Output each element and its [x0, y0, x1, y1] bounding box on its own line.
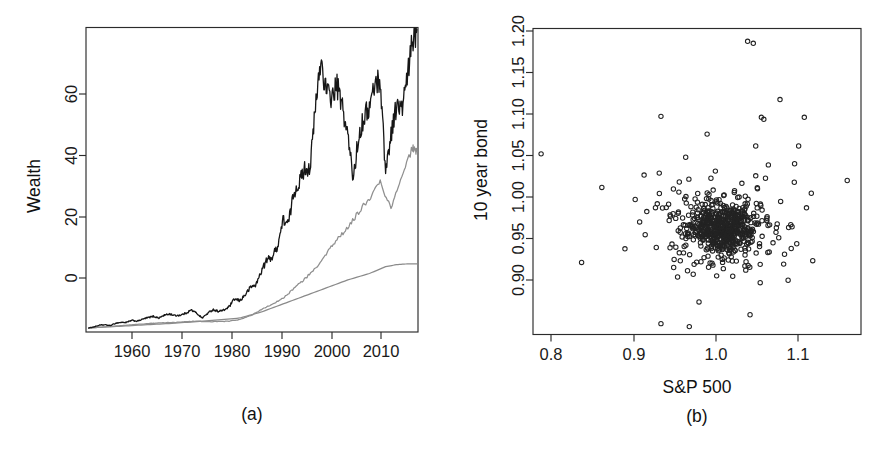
scatter-point	[659, 321, 663, 325]
scatter-point	[743, 253, 747, 257]
series-stock-wealth-line	[89, 24, 417, 328]
panel-a-caption: (a)	[241, 404, 262, 424]
scatter-point	[695, 200, 699, 204]
panel-b-x-ticks	[551, 335, 798, 342]
scatter-point	[845, 178, 849, 182]
panel-b-scatter-points	[539, 39, 850, 329]
scatter-point	[763, 176, 767, 180]
scatter-point	[667, 218, 671, 222]
scatter-point	[751, 41, 755, 45]
scatter-point	[645, 209, 649, 213]
panel-a-wealth-chart: 0 20 40 60 Wealth 1960 1970 1980 1990	[0, 0, 445, 453]
scatter-point	[705, 132, 709, 136]
panel-a-x-tick-labels: 1960 1970 1980 1990 2000 2010	[114, 342, 400, 360]
scatter-point	[706, 265, 710, 269]
panel-b-x-axis-title: S&P 500	[663, 377, 732, 397]
scatter-point	[721, 266, 725, 270]
scatter-point	[678, 259, 682, 263]
scatter-point	[766, 163, 770, 167]
scatter-point	[579, 260, 583, 264]
scatter-point	[697, 300, 701, 304]
scatter-point	[671, 265, 675, 269]
panel-b-ytick-label-115: 1.15	[509, 56, 527, 88]
scatter-point	[709, 176, 713, 180]
scatter-point	[699, 260, 703, 264]
panel-a-xtick-label-1990: 1990	[264, 342, 301, 360]
scatter-point	[714, 274, 718, 278]
panel-b-y-ticks	[526, 31, 533, 280]
series-bond-wealth-line	[89, 264, 417, 328]
panel-a-xtick-label-2000: 2000	[314, 342, 351, 360]
scatter-point	[774, 230, 778, 234]
scatter-point	[758, 280, 762, 284]
figure-container: 0 20 40 60 Wealth 1960 1970 1980 1990	[0, 0, 891, 453]
scatter-point	[782, 252, 786, 256]
scatter-point	[786, 278, 790, 282]
panel-a-ytick-label-20: 20	[62, 208, 80, 226]
scatter-point	[680, 216, 684, 220]
scatter-point	[687, 324, 691, 328]
scatter-point	[672, 257, 676, 261]
scatter-point	[777, 236, 781, 240]
panel-a-y-axis-title: Wealth	[24, 159, 44, 213]
scatter-point	[752, 211, 756, 215]
panel-b-ytick-label-105: 1.05	[509, 139, 527, 171]
scatter-point	[623, 247, 627, 251]
scatter-point	[691, 272, 695, 276]
scatter-point	[745, 39, 749, 43]
scatter-point	[654, 245, 658, 249]
scatter-point	[642, 173, 646, 177]
scatter-point	[677, 180, 681, 184]
scatter-point	[674, 245, 678, 249]
scatter-point	[804, 206, 808, 210]
panel-a-ytick-label-0: 0	[62, 273, 80, 282]
panel-b-y-axis-title: 10 year bond	[471, 119, 491, 221]
panel-a-y-ticks	[79, 94, 86, 278]
scatter-point	[778, 97, 782, 101]
scatter-point	[674, 216, 678, 220]
panel-a-svg: 0 20 40 60 Wealth 1960 1970 1980 1990	[0, 0, 445, 453]
panel-b-xtick-label-08: 0.8	[540, 345, 563, 363]
panel-a-x-ticks	[132, 332, 381, 339]
scatter-point	[811, 258, 815, 262]
panel-a-xtick-label-1980: 1980	[214, 342, 251, 360]
panel-b-xtick-label-11: 1.1	[787, 345, 810, 363]
scatter-point	[659, 114, 663, 118]
scatter-point	[696, 191, 700, 195]
scatter-point	[778, 199, 782, 203]
scatter-point	[792, 162, 796, 166]
scatter-point	[748, 313, 752, 317]
scatter-point	[781, 262, 785, 266]
scatter-point	[600, 185, 604, 189]
panel-b-xtick-label-10: 1.0	[705, 345, 728, 363]
scatter-point	[671, 187, 675, 191]
scatter-point	[643, 232, 647, 236]
scatter-point	[795, 242, 799, 246]
scatter-point	[683, 155, 687, 159]
panel-a-ytick-label-60: 60	[62, 85, 80, 103]
panel-b-ytick-label-095: 0.95	[509, 222, 527, 254]
panel-b-xtick-label-09: 0.9	[623, 345, 646, 363]
panel-a-xtick-label-1970: 1970	[164, 342, 201, 360]
scatter-point	[760, 208, 764, 212]
scatter-point	[689, 204, 693, 208]
scatter-point	[670, 242, 674, 246]
series-mixed-wealth-line	[89, 145, 417, 328]
scatter-point	[539, 152, 543, 156]
scatter-point	[754, 251, 758, 255]
scatter-point	[760, 219, 764, 223]
scatter-point	[657, 171, 661, 175]
scatter-point	[691, 238, 695, 242]
panel-a-xtick-label-2010: 2010	[363, 342, 400, 360]
scatter-point	[771, 241, 775, 245]
scatter-point	[653, 205, 657, 209]
scatter-point	[809, 191, 813, 195]
panel-b-svg: 0.90 0.95 1.00 1.05 1.10 1.15 1.20 10 ye…	[445, 0, 891, 453]
panel-b-ytick-label-120: 1.20	[509, 15, 527, 47]
scatter-point	[796, 144, 800, 148]
scatter-point	[758, 262, 762, 266]
panel-a-y-tick-labels: 0 20 40 60	[62, 85, 80, 283]
scatter-point	[687, 177, 691, 181]
panel-b-caption: (b)	[686, 406, 707, 426]
scatter-point	[666, 202, 670, 206]
